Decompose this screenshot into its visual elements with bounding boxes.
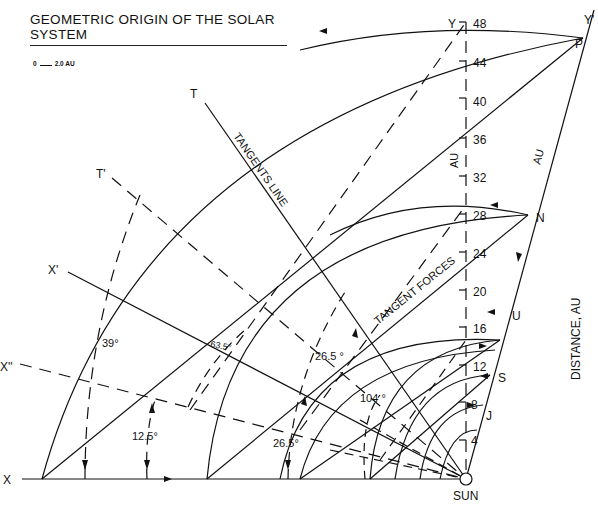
label-au-vertical: AU	[448, 153, 460, 168]
tick-8: 8	[471, 398, 478, 412]
label-xdoubleprime: X''	[0, 360, 13, 374]
tick-20: 20	[473, 285, 487, 299]
angle-12-5: 12.5°	[132, 430, 158, 442]
tick-32: 32	[473, 171, 487, 185]
label-s: S	[498, 371, 506, 385]
axis-tick-labels: 4 8 12 16 20 24 28 32 36 40 44 48	[471, 17, 487, 448]
solar-system-diagram: Y Y' P N U S J T T' X' X'' X SUN 4 8 12 …	[0, 0, 598, 507]
label-y: Y	[448, 17, 456, 31]
tick-16: 16	[473, 322, 487, 336]
angle-39: 39°	[102, 337, 119, 349]
angle-104: 104 °	[360, 392, 386, 404]
label-u: U	[512, 309, 521, 323]
angle-26-5-upper: 26.5 °	[315, 350, 344, 362]
label-au-diagonal: AU	[530, 148, 546, 166]
sun-icon	[460, 473, 472, 485]
label-p: P	[575, 37, 583, 51]
tick-24: 24	[473, 247, 487, 261]
tick-40: 40	[473, 95, 487, 109]
label-tprime: T'	[96, 167, 106, 181]
label-tangent-forces: TANGENT FORCES	[372, 254, 458, 327]
label-t: T	[190, 87, 198, 101]
tick-36: 36	[473, 133, 487, 147]
label-yprime: Y'	[584, 13, 594, 27]
label-n: N	[536, 211, 545, 225]
label-xprime: X'	[48, 263, 58, 277]
tick-4: 4	[471, 434, 478, 448]
label-distance-au: DISTANCE, AU	[569, 298, 583, 380]
axis-ticks	[459, 22, 466, 440]
tick-48: 48	[473, 17, 487, 31]
label-tangents-line: TANGENTS LINE	[231, 130, 290, 208]
arc-s	[395, 375, 490, 479]
arc-u-1	[280, 339, 500, 479]
label-sun: SUN	[453, 489, 478, 503]
angle-26-5-lower: 26.5°	[273, 437, 299, 449]
tick-12: 12	[473, 360, 487, 374]
tick-44: 44	[473, 56, 487, 70]
angle-63-5: 63.5°	[210, 339, 233, 353]
label-x: X	[3, 473, 11, 487]
label-j: J	[486, 409, 492, 423]
tangents-line	[205, 103, 466, 479]
tick-28: 28	[473, 209, 487, 223]
